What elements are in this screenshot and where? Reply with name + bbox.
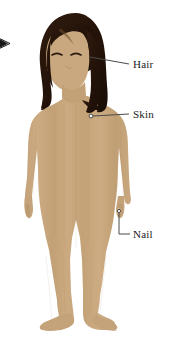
- body-silhouette: [24, 96, 131, 331]
- arrow-right-icon: [0, 36, 8, 51]
- left-arrow-indicator: [0, 35, 10, 52]
- callout-label-skin: Skin: [133, 109, 154, 120]
- foot-left: [40, 313, 75, 331]
- callout-label-nail: Nail: [133, 229, 153, 240]
- skin-marker-icon: [89, 114, 93, 118]
- torso: [25, 96, 131, 331]
- body-diagram-canvas: [0, 0, 174, 340]
- callout-label-hair: Hair: [133, 59, 153, 70]
- body-diagram-figure: Hair Skin Nail: [0, 0, 174, 340]
- nail-marker-icon: [117, 209, 120, 212]
- head: [40, 13, 108, 113]
